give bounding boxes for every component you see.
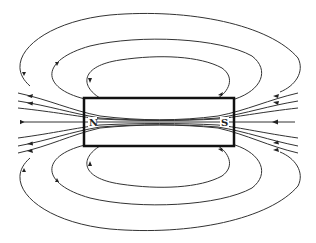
south-pole-label: S bbox=[221, 117, 228, 128]
internal-field-lines bbox=[18, 93, 298, 153]
north-pole-label: N bbox=[89, 117, 98, 128]
magnet-field-diagram: N S bbox=[0, 0, 316, 243]
bottom-field-loops bbox=[20, 145, 300, 231]
top-field-loops bbox=[20, 13, 300, 99]
